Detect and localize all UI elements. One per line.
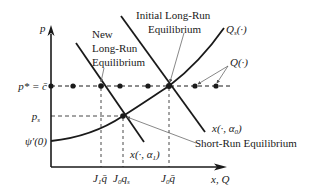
x-alpha1-label: x(·, α1): [129, 148, 160, 162]
q-dots: [48, 83, 218, 119]
q-dot: [117, 83, 122, 88]
q-dot: [166, 83, 172, 89]
q-dot: [192, 83, 197, 88]
x-axis-label: x, Q: [210, 173, 229, 185]
qs-curve-label: Qs(·): [226, 23, 247, 37]
q-curve-label: Q(·): [230, 56, 248, 69]
j0q-label: J0q̄: [161, 172, 175, 186]
initial-lr-label: Equilibrium: [148, 23, 202, 35]
q-dot: [145, 83, 150, 88]
psi-label: ψ′(0): [25, 135, 47, 148]
q-dot: [98, 83, 104, 89]
q-pointer-2: [217, 66, 228, 83]
new-lr-label: New: [92, 28, 113, 40]
y-axis-label: p: [39, 22, 46, 34]
market-equilibrium-diagram: p x, Q p* = c̄ ps ψ′(0) J1q̄ J0qs J0q̄ N…: [0, 0, 319, 194]
x-alpha0-label: x(·, α0): [211, 122, 242, 136]
q-dot: [48, 83, 53, 88]
new-lr-pointer: [101, 68, 104, 82]
q-dot: [213, 83, 218, 88]
q-dot: [70, 83, 75, 88]
q-pointer-1: [198, 66, 228, 84]
p-star-label: p* = c̄: [17, 80, 47, 92]
new-lr-label: Equilibrium: [92, 56, 146, 68]
ps-label: ps: [31, 110, 41, 124]
short-run-equilibrium-dot: [120, 113, 126, 119]
new-lr-label: Long-Run: [92, 42, 138, 54]
short-run-label: Short-Run Equilibrium: [195, 137, 297, 149]
j1q-label: J1q̄: [93, 172, 107, 186]
j0qs-label: J0qs: [113, 172, 130, 186]
initial-lr-label: Initial Long-Run: [136, 9, 211, 21]
short-run-pointer: [127, 117, 196, 143]
